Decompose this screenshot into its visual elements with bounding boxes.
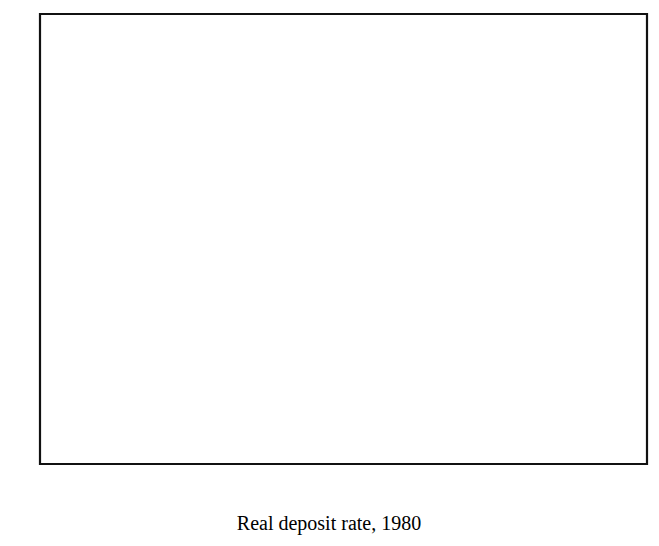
plot-svg: Real deposit rate, 1980 bbox=[0, 0, 659, 546]
plot-frame bbox=[40, 14, 647, 464]
x-axis-title: Real deposit rate, 1980 bbox=[237, 512, 421, 535]
scatter-plot-figure: Real deposit rate, 1980 bbox=[0, 0, 659, 546]
axes-box bbox=[40, 14, 647, 464]
